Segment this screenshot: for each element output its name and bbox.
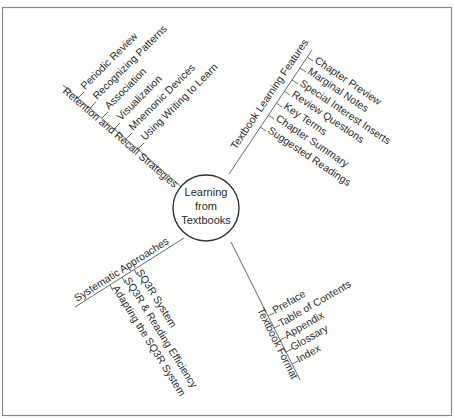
- branch-systematic: Systematic Approaches SQ3R System SQ3R &…: [72, 235, 201, 399]
- mind-map-figure: Retention and Recall Strategies Periodic…: [0, 0, 454, 418]
- systematic-item-label: SQ3R & Reading Efficiency: [122, 275, 201, 391]
- mind-map-canvas: Retention and Recall Strategies Periodic…: [0, 0, 454, 418]
- branch-features: Textbook Learning Features Chapter Previ…: [228, 36, 393, 188]
- tick: [260, 127, 266, 131]
- tick: [300, 68, 306, 72]
- center-label-line-1: Learning: [185, 186, 228, 198]
- tick: [292, 80, 298, 84]
- tick: [276, 103, 282, 107]
- branch-retention: Retention and Recall Strategies Periodic…: [61, 22, 220, 189]
- tick: [307, 57, 313, 61]
- tick: [284, 91, 290, 95]
- branch-format: Textbook Format Preface Table of Content…: [231, 242, 353, 381]
- tick: [268, 115, 274, 119]
- center-label-line-2: from: [195, 200, 217, 212]
- center-node: Learning from Textbooks: [173, 175, 239, 241]
- systematic-item-label: Adapting the SQ3R System: [110, 283, 188, 398]
- center-label-line-3: Textbooks: [181, 214, 231, 226]
